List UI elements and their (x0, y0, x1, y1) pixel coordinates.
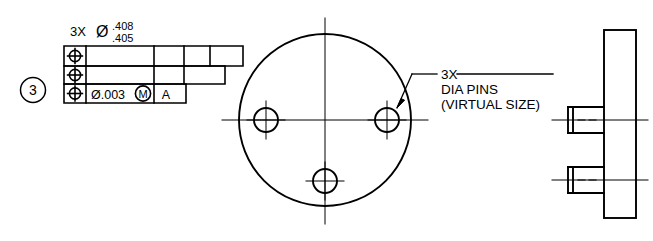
drawing-svg: 3 3X Ø .408 .405 (0, 0, 653, 241)
hole-callout-quantity: 3X (70, 24, 86, 39)
side-view-plate-with-pins (552, 30, 648, 218)
pin-note-line-2: DIA PINS (441, 82, 498, 97)
engineering-drawing-canvas: 3 3X Ø .408 .405 (0, 0, 653, 241)
detail-balloon: 3 (21, 78, 46, 103)
side-view-plate (604, 30, 636, 218)
position-symbol-icon (68, 49, 83, 64)
hole-size-callout: 3X Ø .408 .405 (70, 20, 133, 44)
fcf-row-3-modifier: M (138, 88, 147, 100)
fcf-row-3-datum-primary: A (162, 88, 171, 102)
mmc-modifier-icon: M (135, 86, 150, 101)
detail-balloon-number: 3 (29, 82, 37, 98)
pin-note-line-1: 3X (441, 67, 458, 82)
position-symbol-icon (68, 68, 83, 83)
hole-callout-limit-lower: .405 (112, 32, 133, 44)
fcf-row-2 (64, 66, 225, 84)
pin-note-line-3: (VIRTUAL SIZE) (441, 97, 540, 112)
feature-control-frame: Ø.003 M A (64, 46, 243, 103)
front-view-circular-plate (222, 18, 428, 224)
hole-bottom (306, 162, 344, 200)
hole-callout-limit-upper: .408 (112, 20, 133, 32)
fcf-row-3: Ø.003 M A (64, 84, 186, 103)
hole-left (247, 101, 285, 139)
position-symbol-icon (68, 86, 83, 101)
fcf-row-1 (64, 46, 243, 66)
leader-arrowhead (397, 99, 405, 108)
diameter-symbol-icon: Ø (96, 23, 108, 40)
hole-right (368, 101, 406, 139)
fcf-row-3-tolerance: Ø.003 (91, 88, 125, 102)
